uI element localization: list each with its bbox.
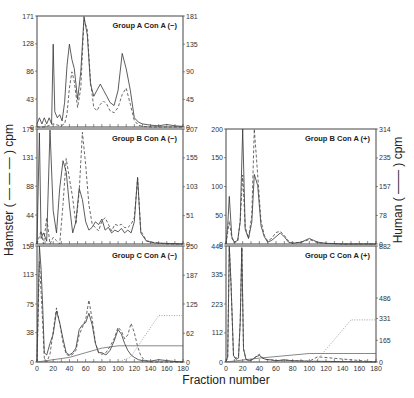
y-tick-left: 128 (22, 40, 34, 47)
panel-title: Group C Con A (−) (112, 251, 178, 260)
y-tick-left: 131 (22, 154, 34, 161)
panel-title: Group B Con A (−) (112, 134, 178, 143)
y-tick-left: 150 (22, 243, 34, 250)
x-tick: 120 (128, 365, 140, 372)
y-tick-right: 135 (186, 41, 198, 48)
y-tick-right: 90 (186, 68, 194, 75)
series-line (226, 129, 376, 244)
y-tick-left: 223 (211, 301, 223, 308)
y-tick-right: 314 (379, 126, 391, 133)
y-tick-right: 45 (186, 96, 194, 103)
x-tick: 0 (224, 365, 228, 372)
y-tick-left: 335 (211, 271, 223, 278)
y-tick-left: 113 (23, 271, 34, 278)
x-tick: 140 (145, 365, 157, 372)
y-tick-left: 175 (22, 126, 34, 133)
panel-title: Group A Con A (−) (112, 21, 177, 30)
x-tick: 40 (255, 365, 263, 372)
panel-title: Group B Con A (+) (305, 134, 371, 143)
y-axis-label-left: Hamster ( — — — ) cpm (2, 124, 16, 256)
y-axis-label-right: Human ( —— ) cpm (391, 137, 405, 244)
y-tick-right: 78 (379, 212, 387, 219)
x-tick: 140 (337, 365, 349, 372)
panels: 0438612817104590135181Group A Con A (−)0… (22, 13, 390, 373)
x-tick: 60 (272, 365, 280, 372)
y-tick-right: 155 (186, 154, 198, 161)
x-axis-label: Fraction number (182, 373, 269, 387)
series-line (226, 248, 376, 362)
panel-1: 0438612817104590135181Group A Con A (−) (22, 13, 197, 131)
y-tick-left: 88 (26, 183, 34, 190)
y-tick-left: 171 (22, 13, 34, 20)
y-tick-right: 331 (379, 315, 391, 322)
y-tick-left: 200 (211, 126, 223, 133)
panel-3: 0387511315006212518725002040608010012014… (22, 243, 197, 373)
x-tick: 80 (289, 365, 297, 372)
panel-frame (37, 246, 183, 362)
x-tick: 80 (98, 365, 106, 372)
x-tick: 180 (177, 365, 189, 372)
y-tick-left: 446 (211, 243, 223, 250)
y-tick-left: 150 (211, 154, 223, 161)
y-tick-right: 125 (186, 301, 198, 308)
x-tick: 0 (35, 365, 39, 372)
panel-2: 04488131175051103155207Group B Con A (−) (22, 126, 197, 248)
figure: 0438612817104590135181Group A Con A (−)0… (0, 0, 414, 398)
series-line (37, 246, 183, 362)
y-tick-left: 75 (26, 301, 34, 308)
x-tick: 100 (303, 365, 315, 372)
series-line (226, 320, 376, 362)
panel-frame (226, 246, 376, 362)
x-tick: 160 (353, 365, 365, 372)
series-line (37, 132, 183, 244)
y-tick-right: 181 (186, 13, 198, 20)
y-tick-left: 43 (26, 96, 34, 103)
y-tick-left: 38 (26, 329, 34, 336)
series-line (226, 246, 376, 362)
x-tick: 160 (161, 365, 173, 372)
x-tick: 60 (82, 365, 90, 372)
y-tick-right: 103 (186, 183, 198, 190)
y-tick-left: 112 (212, 329, 223, 336)
panel-title: Group C Con A (+) (305, 251, 371, 260)
x-tick: 100 (112, 365, 124, 372)
panel-5: 0112223335446016533148688202040608010012… (211, 243, 390, 373)
y-tick-right: 187 (186, 272, 198, 279)
x-tick: 40 (66, 365, 74, 372)
y-tick-right: 62 (186, 330, 194, 337)
y-tick-right: 51 (186, 212, 194, 219)
y-tick-right: 250 (186, 243, 198, 250)
y-tick-left: 44 (26, 212, 34, 219)
y-tick-right: 235 (379, 154, 391, 161)
y-tick-right: 207 (186, 126, 198, 133)
y-tick-right: 882 (379, 243, 391, 250)
y-tick-right: 486 (379, 295, 391, 302)
y-tick-right: 157 (379, 183, 391, 190)
panel-4: 050100150200078157235314Group B Con A (+… (211, 126, 390, 248)
x-tick: 20 (49, 365, 57, 372)
panel-frame (226, 129, 376, 244)
y-tick-left: 50 (215, 212, 223, 219)
y-tick-left: 0 (219, 359, 223, 366)
series-line (37, 316, 183, 362)
series-line (37, 130, 183, 244)
y-tick-left: 100 (211, 183, 223, 190)
y-tick-left: 0 (30, 359, 34, 366)
panel-frame (37, 129, 183, 244)
x-tick: 20 (239, 365, 247, 372)
series-line (226, 129, 376, 244)
y-tick-right: 165 (379, 337, 391, 344)
series-line (37, 20, 183, 127)
x-tick: 120 (320, 365, 332, 372)
y-tick-left: 86 (26, 68, 34, 75)
x-tick: 180 (370, 365, 382, 372)
